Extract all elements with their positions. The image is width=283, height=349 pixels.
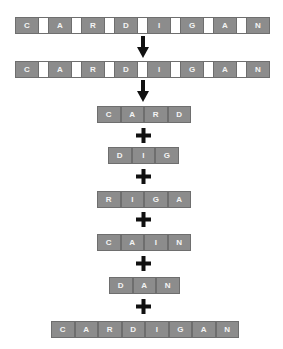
letter-cell: A	[48, 17, 72, 34]
letter-cell: R	[97, 191, 121, 208]
letter-cell: A	[213, 17, 237, 34]
letter-cell: A	[133, 277, 157, 294]
letter-cell: G	[180, 17, 204, 34]
letter-cell: A	[121, 234, 145, 251]
gapped-word-row-2: C A R D I G A N	[15, 61, 270, 78]
gap-cell	[171, 61, 180, 78]
gapped-word-row-1: C A R D I G A N	[15, 17, 270, 34]
down-arrow-icon	[137, 36, 149, 58]
gap-cell	[72, 61, 81, 78]
letter-cell: N	[246, 17, 270, 34]
letter-cell: D	[168, 106, 192, 123]
gap-cell	[171, 17, 180, 34]
gap-cell	[138, 17, 147, 34]
part-cain: C A I N	[97, 234, 191, 251]
letter-cell: I	[147, 61, 171, 78]
letter-cell: N	[168, 234, 192, 251]
gap-cell	[105, 17, 114, 34]
letter-cell: D	[114, 17, 138, 34]
gap-cell	[39, 17, 48, 34]
letter-cell: A	[121, 106, 145, 123]
part-dig: D I G	[108, 147, 179, 164]
letter-cell: N	[246, 61, 270, 78]
letter-cell: C	[97, 234, 121, 251]
down-arrow-icon	[137, 80, 149, 102]
part-dan: D A N	[109, 277, 180, 294]
letter-cell: A	[192, 321, 216, 338]
letter-cell: A	[48, 61, 72, 78]
plus-icon	[136, 299, 151, 314]
gap-cell	[237, 17, 246, 34]
gap-cell	[72, 17, 81, 34]
gap-cell	[204, 17, 213, 34]
letter-cell: D	[122, 321, 146, 338]
letter-cell: N	[216, 321, 240, 338]
letter-cell: I	[121, 191, 145, 208]
plus-icon	[136, 256, 151, 271]
gap-cell	[39, 61, 48, 78]
letter-cell: I	[147, 17, 171, 34]
letter-cell: R	[98, 321, 122, 338]
letter-cell: C	[15, 17, 39, 34]
letter-cell: A	[213, 61, 237, 78]
letter-cell: R	[144, 106, 168, 123]
letter-cell: G	[169, 321, 193, 338]
letter-cell: D	[109, 277, 133, 294]
letter-cell: R	[81, 17, 105, 34]
part-riga: R I G A	[97, 191, 191, 208]
gap-cell	[105, 61, 114, 78]
plus-icon	[136, 169, 151, 184]
letter-cell: G	[155, 147, 179, 164]
gap-cell	[138, 61, 147, 78]
letter-cell: I	[132, 147, 156, 164]
gap-cell	[204, 61, 213, 78]
letter-cell: C	[51, 321, 75, 338]
letter-cell: C	[97, 106, 121, 123]
part-card: C A R D	[97, 106, 191, 123]
letter-cell: A	[168, 191, 192, 208]
letter-cell: G	[144, 191, 168, 208]
plus-icon	[136, 128, 151, 143]
letter-cell: C	[15, 61, 39, 78]
result-word-row: C A R D I G A N	[51, 321, 239, 338]
letter-cell: A	[75, 321, 99, 338]
letter-cell: N	[156, 277, 180, 294]
letter-cell: I	[145, 321, 169, 338]
letter-cell: I	[144, 234, 168, 251]
letter-cell: R	[81, 61, 105, 78]
letter-cell: D	[108, 147, 132, 164]
letter-cell: G	[180, 61, 204, 78]
gap-cell	[237, 61, 246, 78]
plus-icon	[136, 212, 151, 227]
letter-cell: D	[114, 61, 138, 78]
